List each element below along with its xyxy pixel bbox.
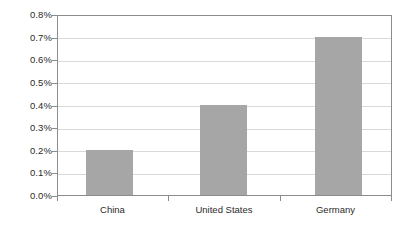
y-axis-label: 0.8% bbox=[16, 10, 52, 20]
y-axis-label: 0.4% bbox=[16, 101, 52, 111]
y-axis-label: 0.7% bbox=[16, 33, 52, 43]
y-axis-label: 0.2% bbox=[16, 146, 52, 156]
x-axis-label-china: China bbox=[57, 204, 168, 216]
bar-germany[interactable] bbox=[315, 37, 362, 195]
y-axis-labels: 0.8% 0.7% 0.6% 0.5% 0.4% 0.3% 0.2% 0.1% … bbox=[12, 0, 52, 226]
y-tick-mark-0.2 bbox=[52, 151, 57, 152]
y-tick-mark-0.4 bbox=[52, 106, 57, 107]
x-axis-label-united-states: United States bbox=[168, 204, 280, 216]
y-axis-label: 0.6% bbox=[16, 55, 52, 65]
x-tick-mark-2 bbox=[280, 196, 281, 201]
plot-area bbox=[57, 15, 392, 196]
y-tick-mark-0.7 bbox=[52, 38, 57, 39]
x-tick-mark-1 bbox=[168, 196, 169, 201]
y-tick-mark-0.1 bbox=[52, 173, 57, 174]
y-tick-mark-0.3 bbox=[52, 128, 57, 129]
bar-china[interactable] bbox=[86, 150, 133, 195]
y-axis-label: 0.1% bbox=[16, 168, 52, 178]
y-axis-label: 0.0% bbox=[16, 191, 52, 201]
y-axis-label: 0.5% bbox=[16, 78, 52, 88]
y-tick-mark-0.8 bbox=[52, 15, 57, 16]
bar-united-states[interactable] bbox=[200, 105, 247, 196]
y-axis-label: 0.3% bbox=[16, 123, 52, 133]
y-tick-mark-0.6 bbox=[52, 60, 57, 61]
x-tick-mark-start bbox=[57, 196, 58, 201]
bar-chart: 0.8% 0.7% 0.6% 0.5% 0.4% 0.3% 0.2% 0.1% … bbox=[0, 0, 415, 226]
y-tick-mark-0.5 bbox=[52, 83, 57, 84]
x-tick-mark-end bbox=[391, 196, 392, 201]
x-axis-label-germany: Germany bbox=[280, 204, 391, 216]
